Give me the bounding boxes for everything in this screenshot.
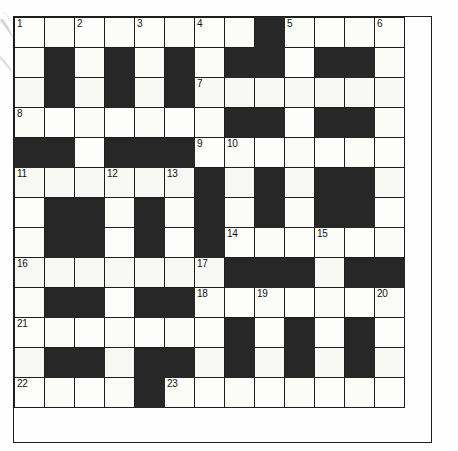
crossword-cell[interactable] xyxy=(75,138,105,168)
crossword-cell[interactable]: 3 xyxy=(135,18,165,48)
crossword-cell[interactable] xyxy=(315,378,345,408)
crossword-cell[interactable] xyxy=(165,108,195,138)
crossword-grid[interactable]: 1234567891011121314151617181920212223 xyxy=(14,17,405,408)
crossword-cell[interactable] xyxy=(225,78,255,108)
crossword-cell[interactable] xyxy=(225,288,255,318)
crossword-cell[interactable] xyxy=(135,318,165,348)
crossword-cell[interactable] xyxy=(135,168,165,198)
crossword-cell[interactable] xyxy=(375,48,405,78)
crossword-cell[interactable]: 19 xyxy=(255,288,285,318)
crossword-cell[interactable] xyxy=(45,378,75,408)
crossword-cell[interactable]: 17 xyxy=(195,258,225,288)
crossword-cell[interactable] xyxy=(255,228,285,258)
crossword-cell[interactable] xyxy=(45,318,75,348)
crossword-cell[interactable] xyxy=(345,18,375,48)
crossword-cell[interactable] xyxy=(105,258,135,288)
crossword-cell[interactable] xyxy=(315,318,345,348)
crossword-cell[interactable]: 10 xyxy=(225,138,255,168)
crossword-cell[interactable] xyxy=(75,378,105,408)
crossword-cell[interactable] xyxy=(285,198,315,228)
crossword-cell[interactable] xyxy=(75,168,105,198)
crossword-cell[interactable] xyxy=(345,78,375,108)
crossword-cell[interactable] xyxy=(285,228,315,258)
crossword-cell[interactable] xyxy=(105,228,135,258)
crossword-cell[interactable] xyxy=(375,138,405,168)
crossword-cell[interactable] xyxy=(105,318,135,348)
crossword-cell[interactable] xyxy=(165,318,195,348)
crossword-cell[interactable] xyxy=(15,198,45,228)
crossword-cell[interactable] xyxy=(165,18,195,48)
crossword-cell[interactable] xyxy=(105,348,135,378)
crossword-cell[interactable] xyxy=(45,258,75,288)
crossword-cell[interactable] xyxy=(375,198,405,228)
crossword-cell[interactable] xyxy=(15,48,45,78)
crossword-cell[interactable] xyxy=(375,318,405,348)
crossword-cell[interactable] xyxy=(315,78,345,108)
crossword-cell[interactable] xyxy=(15,288,45,318)
crossword-cell[interactable]: 1 xyxy=(15,18,45,48)
crossword-cell[interactable]: 2 xyxy=(75,18,105,48)
crossword-cell[interactable] xyxy=(195,108,225,138)
crossword-cell[interactable] xyxy=(285,78,315,108)
crossword-cell[interactable] xyxy=(345,378,375,408)
crossword-cell[interactable] xyxy=(255,78,285,108)
crossword-cell[interactable] xyxy=(75,48,105,78)
crossword-cell[interactable]: 23 xyxy=(165,378,195,408)
crossword-cell[interactable] xyxy=(255,348,285,378)
crossword-cell[interactable] xyxy=(195,48,225,78)
crossword-cell[interactable] xyxy=(225,168,255,198)
crossword-cell[interactable] xyxy=(255,138,285,168)
crossword-cell[interactable] xyxy=(105,108,135,138)
crossword-cell[interactable]: 20 xyxy=(375,288,405,318)
crossword-cell[interactable] xyxy=(15,78,45,108)
crossword-cell[interactable] xyxy=(375,108,405,138)
crossword-cell[interactable]: 18 xyxy=(195,288,225,318)
crossword-cell[interactable] xyxy=(315,288,345,318)
crossword-cell[interactable] xyxy=(45,108,75,138)
crossword-cell[interactable] xyxy=(105,198,135,228)
crossword-cell[interactable] xyxy=(375,168,405,198)
crossword-cell[interactable] xyxy=(135,108,165,138)
crossword-cell[interactable] xyxy=(285,378,315,408)
crossword-cell[interactable] xyxy=(285,138,315,168)
crossword-cell[interactable] xyxy=(135,258,165,288)
crossword-cell[interactable] xyxy=(345,228,375,258)
crossword-cell[interactable]: 6 xyxy=(375,18,405,48)
crossword-cell[interactable] xyxy=(345,138,375,168)
crossword-cell[interactable] xyxy=(285,48,315,78)
crossword-cell[interactable] xyxy=(105,18,135,48)
crossword-cell[interactable] xyxy=(105,288,135,318)
crossword-cell[interactable] xyxy=(195,348,225,378)
crossword-cell[interactable] xyxy=(195,318,225,348)
crossword-cell[interactable] xyxy=(315,138,345,168)
crossword-cell[interactable]: 4 xyxy=(195,18,225,48)
crossword-cell[interactable] xyxy=(315,18,345,48)
crossword-cell[interactable] xyxy=(375,348,405,378)
crossword-cell[interactable] xyxy=(375,378,405,408)
crossword-cell[interactable] xyxy=(315,258,345,288)
crossword-cell[interactable] xyxy=(165,258,195,288)
crossword-cell[interactable]: 16 xyxy=(15,258,45,288)
crossword-cell[interactable]: 14 xyxy=(225,228,255,258)
crossword-cell[interactable] xyxy=(195,378,225,408)
crossword-cell[interactable]: 22 xyxy=(15,378,45,408)
crossword-cell[interactable] xyxy=(165,228,195,258)
crossword-cell[interactable] xyxy=(285,168,315,198)
crossword-cell[interactable] xyxy=(135,78,165,108)
crossword-cell[interactable]: 11 xyxy=(15,168,45,198)
crossword-cell[interactable] xyxy=(225,198,255,228)
crossword-cell[interactable] xyxy=(75,258,105,288)
crossword-cell[interactable] xyxy=(225,378,255,408)
crossword-cell[interactable] xyxy=(315,348,345,378)
crossword-cell[interactable] xyxy=(15,228,45,258)
crossword-cell[interactable]: 15 xyxy=(315,228,345,258)
crossword-cell[interactable] xyxy=(285,108,315,138)
crossword-cell[interactable] xyxy=(285,288,315,318)
crossword-cell[interactable] xyxy=(345,288,375,318)
crossword-cell[interactable] xyxy=(15,348,45,378)
crossword-cell[interactable] xyxy=(165,198,195,228)
crossword-cell[interactable] xyxy=(75,318,105,348)
crossword-cell[interactable] xyxy=(225,18,255,48)
crossword-cell[interactable]: 5 xyxy=(285,18,315,48)
crossword-cell[interactable]: 7 xyxy=(195,78,225,108)
